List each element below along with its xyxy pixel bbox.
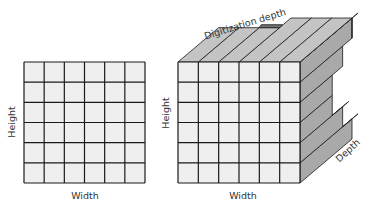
digitization-diagram: Width Height Width Height Depth Digitiza… [0,0,385,210]
2d-image-grid [24,62,145,183]
left-width-label: Width [71,190,99,201]
left-height-label: Height [6,106,17,138]
right-height-label: Height [160,97,171,129]
column-bar-notch [259,25,282,28]
right-width-label: Width [229,190,257,201]
